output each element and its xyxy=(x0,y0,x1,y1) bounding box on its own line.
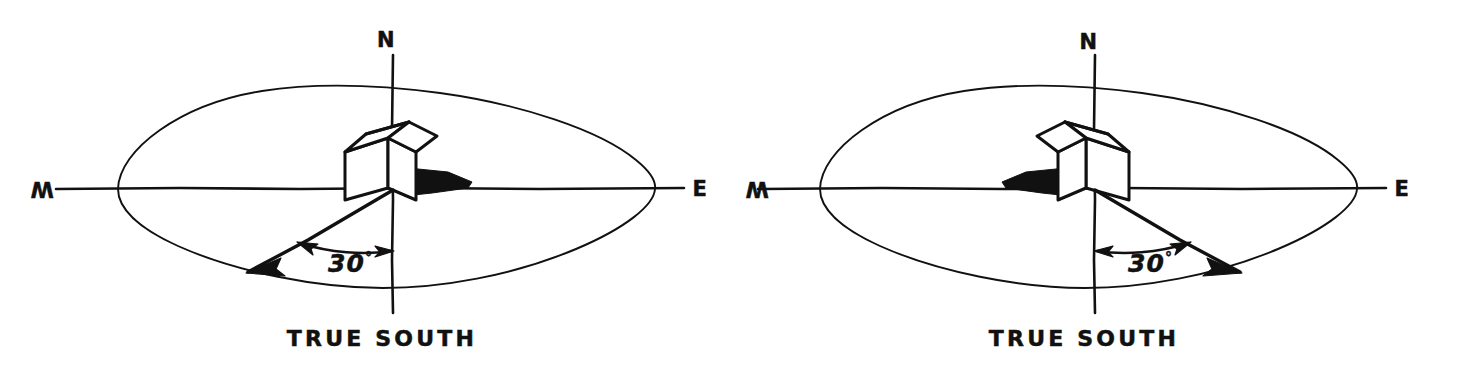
label-west-right: W xyxy=(745,177,769,201)
diagram-right: N W E 30 ° TRUE SOUTH xyxy=(745,28,1409,351)
angle-value-right: 30 xyxy=(1128,249,1165,278)
solar-orientation-figure: N W E 30 ° TRUE SOUTH xyxy=(0,0,1464,380)
azimuth-arrow-head-left xyxy=(246,258,285,276)
angle-degree-sign-right: ° xyxy=(1165,249,1172,265)
diagram-canvas: N W E 30 ° TRUE SOUTH xyxy=(0,0,1464,380)
label-west-left: W xyxy=(30,177,54,201)
angle-arc-head-west-left xyxy=(297,242,318,255)
diagram-left: N W E 30 ° TRUE SOUTH xyxy=(30,28,707,351)
label-north-left: N xyxy=(377,28,395,52)
caption-true-south-right: TRUE SOUTH xyxy=(989,326,1179,351)
angle-value-left: 30 xyxy=(328,249,365,278)
angle-arc-head-east-right xyxy=(1170,242,1191,255)
azimuth-arrow-head-right xyxy=(1203,258,1242,276)
label-east-right: E xyxy=(1395,177,1410,201)
label-north-right: N xyxy=(1079,28,1097,52)
label-east-left: E xyxy=(693,177,708,201)
caption-true-south-left: TRUE SOUTH xyxy=(287,326,477,351)
angle-degree-sign-left: ° xyxy=(365,249,372,265)
